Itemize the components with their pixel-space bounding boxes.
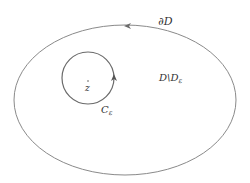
center-point-dot (87, 80, 88, 81)
inner-circle-label: Cε (101, 104, 113, 117)
outer-orientation-arrow-icon (124, 23, 131, 29)
region-label: D\Dε (158, 72, 182, 85)
region-label-sub: ε (178, 77, 182, 85)
point-z-label: z (84, 83, 90, 93)
contour-diagram: ∂D z Cε D\Dε (0, 0, 250, 183)
inner-circle-label-sub: ε (109, 109, 113, 117)
outer-boundary-label: ∂D (158, 15, 173, 28)
region-label-main: D\D (158, 72, 178, 83)
inner-circle-curve (62, 52, 114, 104)
outer-boundary-curve (14, 25, 236, 175)
